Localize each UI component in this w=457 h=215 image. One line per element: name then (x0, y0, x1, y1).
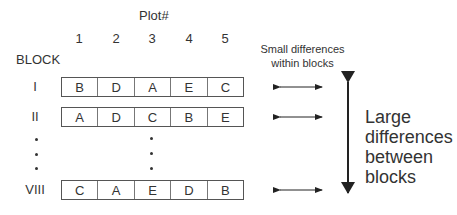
large-differences-label: Large differences between blocks (365, 107, 453, 187)
